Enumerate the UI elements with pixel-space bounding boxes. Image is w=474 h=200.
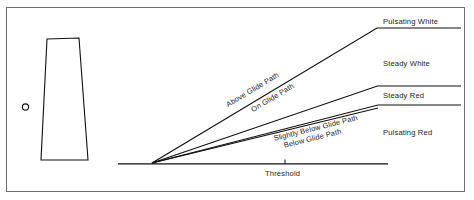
below-glide-path-line	[152, 108, 378, 163]
above-glide-path-line	[152, 28, 461, 163]
papi-diagram-figure: Above Glide Path On Glide Path Slightly …	[0, 0, 474, 200]
runway-perspective-shape	[41, 38, 88, 160]
diagram-canvas	[0, 0, 474, 200]
slightly-below-glide-path-line	[152, 105, 461, 163]
aircraft-position-circle	[22, 104, 28, 110]
